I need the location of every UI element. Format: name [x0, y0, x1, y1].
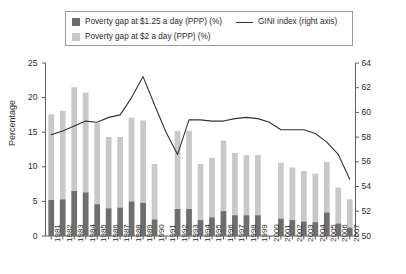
x-axis-tick-2003: 2003	[307, 224, 315, 242]
x-axis-tick-2001: 2001	[284, 224, 292, 242]
x-axis-tick-2006: 2006	[341, 224, 349, 242]
poverty-gini-chart: Poverty gap at $1.25 a day (PPP) (%) Pov…	[0, 0, 406, 274]
x-axis-tick-1984: 1984	[89, 224, 97, 242]
x-axis-tick-1988: 1988	[135, 224, 143, 242]
y-axis-tick-right-64: 64	[362, 59, 384, 67]
x-axis-tick-1987: 1987	[123, 224, 131, 242]
y-axis-tick-right-50: 50	[362, 232, 384, 240]
x-axis-tick-1998: 1998	[250, 224, 258, 242]
x-axis-tick-1983: 1983	[77, 224, 85, 242]
x-axis-tick-1992: 1992	[181, 224, 189, 242]
x-axis-tick-1991: 1991	[169, 224, 177, 242]
y-axis-tick-right-58: 58	[362, 133, 384, 141]
x-axis-tick-2004: 2004	[319, 224, 327, 242]
x-axis-tick-2000: 2000	[273, 224, 281, 242]
x-axis-tick-2005: 2005	[330, 224, 338, 242]
x-axis-tick-1986: 1986	[112, 224, 120, 242]
x-axis-tick-1994: 1994	[204, 224, 212, 242]
y-axis-tick-left-5: 5	[16, 197, 38, 205]
y-axis-tick-right-60: 60	[362, 108, 384, 116]
y-axis-tick-right-62: 62	[362, 83, 384, 91]
x-axis-tick-1982: 1982	[66, 224, 74, 242]
x-axis-tick-2007: 2007	[353, 224, 361, 242]
y-axis-tick-left-25: 25	[16, 59, 38, 67]
x-axis-tick-1989: 1989	[146, 224, 154, 242]
x-axis-tick-1985: 1985	[100, 224, 108, 242]
y-axis-tick-left-20: 20	[16, 93, 38, 101]
y-axis-tick-left-15: 15	[16, 128, 38, 136]
x-axis-tick-1990: 1990	[158, 224, 166, 242]
x-axis-tick-1996: 1996	[227, 224, 235, 242]
x-axis-tick-1993: 1993	[192, 224, 200, 242]
y-axis-tick-right-52: 52	[362, 207, 384, 215]
x-axis-tick-1981: 1981	[54, 224, 62, 242]
x-axis-tick-2002: 2002	[296, 224, 304, 242]
y-axis-tick-right-54: 54	[362, 182, 384, 190]
y-axis-tick-left-10: 10	[16, 162, 38, 170]
y-axis-tick-right-56: 56	[362, 157, 384, 165]
y-axis-tick-left-0: 0	[16, 232, 38, 240]
x-axis-tick-1999: 1999	[261, 224, 269, 242]
x-axis-tick-1995: 1995	[215, 224, 223, 242]
x-axis-tick-1997: 1997	[238, 224, 246, 242]
